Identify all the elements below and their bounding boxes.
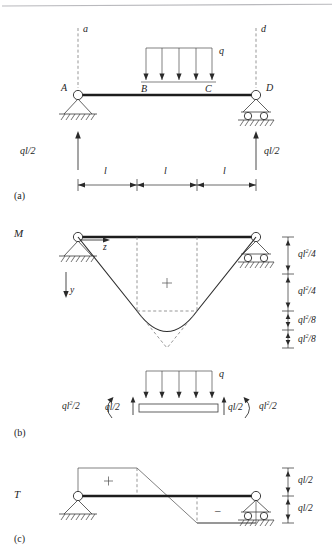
axis-label-z: z	[103, 243, 107, 253]
panel-caption-b: (b)	[14, 428, 26, 438]
reaction-label-right: ql/2	[264, 146, 280, 156]
fbdml-den: /2	[72, 401, 79, 411]
diagram-label-T: T	[14, 489, 20, 500]
ord2-den: /4	[308, 286, 315, 296]
dimension-line-a	[78, 179, 256, 191]
fbd-moment-left: ql2/2	[62, 401, 80, 412]
section-label-d: d	[261, 24, 266, 34]
ord3-den: /8	[308, 315, 315, 325]
reaction-arrow-right	[253, 131, 259, 170]
moment-sign-plus	[162, 278, 172, 288]
shear-sign-negative: –	[215, 505, 221, 516]
panel-caption-c: (c)	[14, 534, 25, 544]
node-label-B: B	[141, 84, 147, 94]
span-label-3: l	[223, 166, 226, 176]
fbd-shear-left: ql/2	[105, 403, 120, 413]
distributed-load-a	[141, 48, 216, 82]
fbd-shear-right: ql/2	[228, 403, 243, 413]
shear-ordinate-scale	[282, 468, 294, 523]
structural-beam-figure: a d q A B C D ql/2 ql/2 l l l (a) M z y …	[0, 0, 334, 559]
moment-ordinate-1: ql2/4	[298, 249, 316, 260]
diagram-label-M: M	[14, 228, 23, 239]
ord1-den: /4	[308, 249, 315, 259]
fbd-moment-right: ql2/2	[259, 401, 277, 412]
moment-ordinate-4: ql2/8	[298, 334, 316, 345]
span-label-2: l	[164, 166, 167, 176]
axis-label-y: y	[70, 286, 74, 296]
node-label-C: C	[205, 84, 212, 94]
moment-ordinate-scale	[282, 237, 294, 348]
page-rule	[2, 4, 332, 6]
fbd-load-label: q	[219, 369, 224, 379]
moment-ext-right	[167, 311, 197, 348]
reaction-arrow-left	[75, 131, 81, 170]
span-label-1: l	[104, 166, 107, 176]
panel-b-graphics	[59, 232, 294, 418]
panel-c-graphics	[59, 468, 294, 526]
node-label-D: D	[266, 83, 273, 93]
moment-ordinate-3: ql2/8	[298, 315, 316, 326]
axis-y	[63, 272, 68, 298]
ord4-den: /8	[308, 334, 315, 344]
figure-canvas	[0, 0, 334, 559]
load-label-a: q	[219, 46, 224, 56]
shear-sign-plus	[104, 477, 113, 486]
section-label-a: a	[83, 24, 88, 34]
moment-ext-left	[137, 311, 167, 348]
node-label-A: A	[61, 83, 67, 93]
fbdmr-den: /2	[269, 401, 276, 411]
moment-ordinate-2: ql2/4	[298, 286, 316, 297]
reaction-label-left: ql/2	[20, 146, 36, 156]
shear-ordinate-1: ql/2	[298, 476, 313, 486]
panel-caption-a: (a)	[14, 191, 25, 201]
shear-ordinate-2: ql/2	[298, 504, 313, 514]
